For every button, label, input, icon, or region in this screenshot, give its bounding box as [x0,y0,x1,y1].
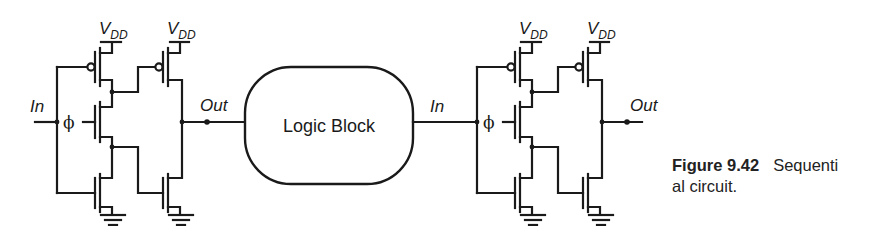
pmos-transistor-1 [57,42,121,92]
clock-phi-label: ϕ [483,112,495,132]
ground-icon [521,215,545,225]
node-a-wire [532,67,576,92]
vdd-label: VDD [519,19,548,42]
ground-icon [169,215,193,225]
logic-block-label: Logic Block [283,116,376,136]
ground-icon [589,215,613,225]
nmos-transistor-1 [477,147,545,225]
pmos-transistor-1 [477,42,541,92]
output-label: Out [630,96,659,115]
ground-icon [101,215,125,225]
output-terminal-dot [624,119,630,125]
nmos-transistor-2 [583,122,613,225]
output-terminal-dot [204,119,210,125]
input-label: In [30,97,44,116]
clock-nmos-transistor: ϕ [63,92,112,147]
logic-block: Logic Block [245,67,413,184]
input-label: In [430,97,444,116]
caption-text-line1: Sequenti [773,156,838,174]
clock-phi-label: ϕ [63,112,75,132]
vdd-label: VDD [587,19,616,42]
nmos-transistor-1 [57,147,125,225]
figure-number: Figure 9.42 [672,156,759,174]
pmos-transistor-2 [575,42,609,122]
clock-nmos-transistor: ϕ [483,92,532,147]
vdd-label: VDD [99,19,128,42]
left-latch: In VDD ϕ [30,19,245,225]
pmos-transistor-2 [155,42,189,122]
inversion-bubble-icon [507,63,514,70]
inversion-bubble-icon [87,63,94,70]
node-b-wire [112,147,163,193]
node-a-wire [112,67,156,92]
figure-caption: Figure 9.42Sequenti al circuit. [672,155,882,197]
inversion-bubble-icon [575,63,582,70]
nmos-transistor-2 [163,122,193,225]
vdd-label: VDD [167,19,196,42]
node-b-wire [532,147,583,193]
output-label: Out [200,96,229,115]
right-latch: In VDD ϕ [413,19,659,225]
caption-text-line2: al circuit. [672,177,737,195]
inversion-bubble-icon [155,63,162,70]
